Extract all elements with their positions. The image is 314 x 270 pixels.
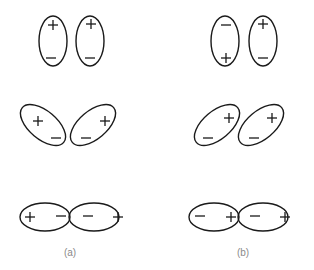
- orbital-lobe: [69, 203, 123, 231]
- orbital-lobe: [39, 16, 67, 66]
- panel-label: (b): [237, 247, 249, 258]
- tilted-pair: [187, 97, 290, 153]
- orbital-lobe: [249, 16, 277, 66]
- plus-sign-icon: [113, 212, 123, 222]
- plus-sign-icon: [100, 116, 110, 126]
- plus-sign-icon: [48, 20, 58, 30]
- orbital-lobe: [13, 97, 72, 153]
- lobe-outline: [63, 97, 122, 153]
- plus-sign-icon: [258, 19, 268, 29]
- tilted-pair: [13, 97, 122, 153]
- plus-sign-icon: [224, 113, 234, 123]
- plus-sign-icon: [226, 212, 236, 222]
- orbital-lobe: [238, 203, 290, 231]
- lobe-outline: [69, 203, 119, 231]
- vertical-pair: [211, 16, 277, 66]
- plus-sign-icon: [221, 53, 231, 63]
- panel-label: (a): [64, 247, 76, 258]
- plus-sign-icon: [280, 212, 290, 222]
- plus-sign-icon: [86, 19, 96, 29]
- vertical-pair: [39, 16, 104, 66]
- lobe-outline: [187, 97, 246, 153]
- orbital-lobe: [63, 97, 122, 153]
- plus-sign-icon: [33, 116, 43, 126]
- orbital-phase-diagram: [0, 0, 314, 270]
- plus-sign-icon: [25, 212, 35, 222]
- horizontal-pair: [189, 203, 290, 231]
- orbital-lobe: [20, 203, 70, 231]
- lobe-outline: [13, 97, 72, 153]
- lobe-outline: [231, 97, 290, 153]
- orbital-lobe: [211, 16, 239, 66]
- orbital-lobe: [187, 97, 246, 153]
- orbital-lobe: [189, 203, 239, 231]
- orbital-lobe: [231, 97, 290, 153]
- orbital-lobe: [76, 16, 104, 66]
- panel-a: [13, 16, 123, 231]
- plus-sign-icon: [267, 113, 277, 123]
- panel-b: [187, 16, 290, 231]
- horizontal-pair: [20, 203, 123, 231]
